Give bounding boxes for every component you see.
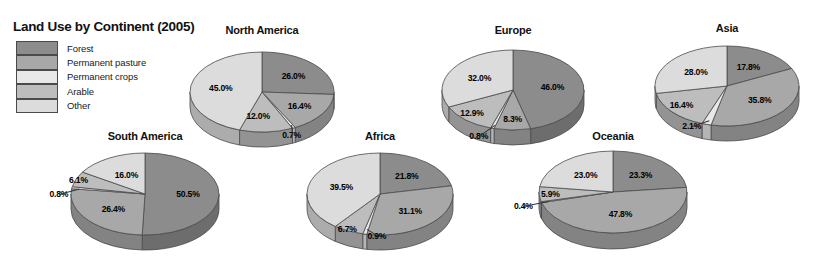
pie-slice-label: 16.4% [288, 101, 311, 111]
legend-item: Permanent crops [16, 70, 146, 84]
pie-slice-side-permanent-crops [491, 128, 494, 144]
pie-slice-label: 46.0% [541, 82, 564, 92]
pie-slice-label: 21.8% [395, 171, 418, 181]
legend-item: Other [16, 99, 146, 113]
legend-swatch [16, 55, 58, 69]
pie-slice-label: 0.9% [367, 231, 386, 241]
pie-slice-label: 47.8% [609, 209, 632, 219]
pie-slice-label: 23.3% [629, 170, 652, 180]
pie-slice-label: 6.1% [69, 175, 88, 185]
pie-slice-label: 17.8% [737, 62, 760, 72]
pie-slice-label: 39.5% [330, 182, 353, 192]
legend-label: Permanent pasture [67, 57, 146, 68]
pie-slice-label: 26.4% [102, 204, 125, 214]
legend-swatch [16, 99, 58, 113]
pie-africa [277, 123, 483, 271]
pie-slice-label: 35.8% [748, 95, 771, 105]
legend-label: Other [67, 100, 90, 111]
pie-slice-label: 26.0% [282, 71, 305, 81]
legend-item: Forest [16, 41, 146, 55]
legend: ForestPermanent pasturePermanent cropsAr… [16, 41, 146, 113]
pie-slice-label: 5.9% [541, 189, 560, 199]
legend-item: Permanent pasture [16, 55, 146, 69]
pie-slice-side-permanent-crops [363, 234, 367, 249]
legend-swatch [16, 70, 58, 84]
pie-south-america [41, 123, 249, 271]
legend-swatch [16, 41, 58, 55]
legend-label: Forest [67, 43, 93, 54]
pie-slice-label: 12.0% [246, 111, 269, 121]
pie-slice-label: 16.0% [115, 170, 138, 180]
pie-slice-label: 50.5% [176, 189, 199, 199]
pie-slice-label: 45.0% [209, 83, 232, 93]
legend-item: Arable [16, 84, 146, 98]
pie-slice-label: 6.7% [338, 224, 357, 234]
pie-slice-label: 23.0% [574, 170, 597, 180]
pie-slice-label: 32.0% [468, 73, 491, 83]
pie-slice-label: 28.0% [684, 67, 707, 77]
pie-slice-label: 12.9% [460, 108, 483, 118]
pie-slice-label: 31.1% [399, 206, 422, 216]
legend-label: Arable [67, 86, 94, 97]
legend-swatch [16, 84, 58, 98]
legend-label: Permanent crops [67, 71, 138, 82]
land-use-pie-chart-figure: Land Use by Continent (2005) ForestPerma… [0, 0, 813, 271]
pie-slice-label: 16.4% [670, 100, 693, 110]
